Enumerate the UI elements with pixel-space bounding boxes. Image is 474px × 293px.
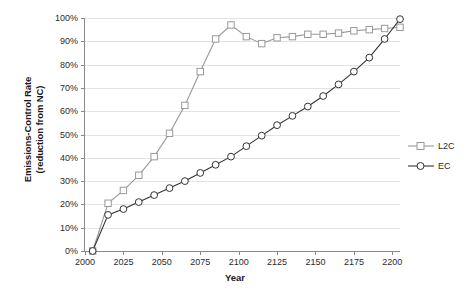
series-line-l2c xyxy=(93,25,400,251)
data-point-marker xyxy=(304,103,311,110)
data-point-marker xyxy=(166,130,172,136)
data-point-marker xyxy=(381,25,387,31)
series-line-ec xyxy=(93,19,400,251)
y-axis-title-line-1: Emissions-Control Rate xyxy=(22,35,34,225)
legend: L2C EC xyxy=(408,136,455,176)
y-axis-label: 10% xyxy=(60,223,78,233)
data-point-marker xyxy=(228,22,234,28)
legend-swatch-ec-icon xyxy=(408,160,434,172)
data-point-marker xyxy=(120,206,127,213)
data-point-marker xyxy=(105,211,112,218)
x-axis-label: 2000 xyxy=(75,257,95,267)
data-point-marker xyxy=(89,248,96,255)
data-point-marker xyxy=(120,187,126,193)
legend-item-ec[interactable]: EC xyxy=(408,156,455,176)
data-point-marker xyxy=(243,33,249,39)
x-tick-mark xyxy=(277,251,278,255)
y-axis-label: 20% xyxy=(60,199,78,209)
legend-label-ec: EC xyxy=(438,161,451,171)
x-axis-title: Year xyxy=(70,272,400,283)
data-point-marker xyxy=(366,26,372,32)
data-point-marker xyxy=(136,172,142,178)
y-axis-label: 80% xyxy=(60,60,78,70)
x-axis-label: 2100 xyxy=(229,257,249,267)
x-tick-mark xyxy=(123,251,124,255)
x-axis-label: 2200 xyxy=(382,257,402,267)
data-point-marker xyxy=(366,54,373,61)
x-axis-label: 2050 xyxy=(152,257,172,267)
legend-swatch-l2c-icon xyxy=(408,140,434,152)
x-tick-mark xyxy=(354,251,355,255)
data-point-marker xyxy=(151,153,157,159)
data-point-marker xyxy=(166,185,173,192)
data-point-marker xyxy=(381,36,388,43)
y-axis-label: 60% xyxy=(60,106,78,116)
x-tick-mark xyxy=(200,251,201,255)
y-axis-label: 0% xyxy=(65,246,78,256)
x-tick-mark xyxy=(85,251,86,255)
data-point-marker xyxy=(197,170,204,177)
x-axis-label: 2075 xyxy=(190,257,210,267)
y-axis-label: 100% xyxy=(55,13,78,23)
data-point-marker xyxy=(335,81,342,88)
series-ec xyxy=(89,16,403,255)
y-axis-label: 40% xyxy=(60,153,78,163)
data-point-marker xyxy=(259,40,265,46)
legend-label-l2c: L2C xyxy=(438,141,455,151)
data-point-marker xyxy=(351,28,357,34)
data-point-marker xyxy=(289,33,295,39)
data-point-marker xyxy=(289,112,296,119)
y-axis-label: 50% xyxy=(60,130,78,140)
x-axis-label: 2150 xyxy=(305,257,325,267)
y-axis-label: 30% xyxy=(60,176,78,186)
data-point-marker xyxy=(274,35,280,41)
data-point-marker xyxy=(335,30,341,36)
y-axis-title-line-2: (reduction from NC) xyxy=(33,35,45,225)
data-point-marker xyxy=(320,93,327,100)
y-axis-title: Emissions-Control Rate (reduction from N… xyxy=(22,35,45,225)
x-axis-label: 2025 xyxy=(113,257,133,267)
emissions-control-rate-chart: Emissions-Control Rate (reduction from N… xyxy=(0,0,474,293)
data-point-marker xyxy=(228,153,235,160)
x-tick-mark xyxy=(315,251,316,255)
legend-item-l2c[interactable]: L2C xyxy=(408,136,455,156)
data-point-marker xyxy=(397,16,404,23)
data-point-marker xyxy=(212,161,219,168)
data-point-marker xyxy=(320,31,326,37)
x-tick-mark xyxy=(239,251,240,255)
data-point-marker xyxy=(351,68,358,75)
data-point-marker xyxy=(305,31,311,37)
y-axis-label: 90% xyxy=(60,36,78,46)
plot-area: 0%10%20%30%40%50%60%70%80%90%100% 200020… xyxy=(84,18,400,252)
data-point-marker xyxy=(197,68,203,74)
y-axis-label: 70% xyxy=(60,83,78,93)
data-point-marker xyxy=(182,102,188,108)
data-point-marker xyxy=(212,36,218,42)
data-point-marker xyxy=(274,122,281,129)
data-point-marker xyxy=(181,178,188,185)
series-l2c xyxy=(89,22,403,254)
x-tick-mark xyxy=(392,251,393,255)
x-axis-label: 2125 xyxy=(267,257,287,267)
x-tick-mark xyxy=(162,251,163,255)
data-series-layer xyxy=(85,18,400,251)
data-point-marker xyxy=(151,192,158,199)
x-axis-label: 2175 xyxy=(344,257,364,267)
data-point-marker xyxy=(105,200,111,206)
data-point-marker xyxy=(258,132,265,139)
data-point-marker xyxy=(397,24,403,30)
data-point-marker xyxy=(243,143,250,150)
data-point-marker xyxy=(135,199,142,206)
